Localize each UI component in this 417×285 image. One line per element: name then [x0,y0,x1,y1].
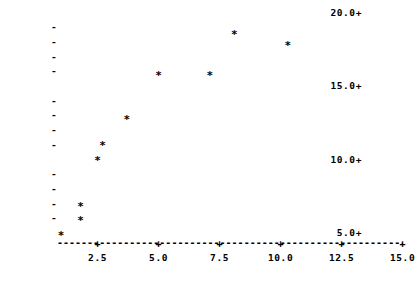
x-axis-label-7-5: 7.5 [210,253,229,263]
data-point: * [94,155,101,166]
data-point: * [285,40,292,51]
x-axis-tick-mark: + [156,239,162,249]
x-axis-label-10: 10.0 [268,253,293,263]
x-axis-tick-mark: + [217,239,223,249]
y-axis-minor-tick: - [51,96,60,106]
data-point: * [58,230,65,241]
data-point: * [207,70,214,81]
data-point: * [124,114,131,125]
data-point: * [77,215,84,226]
y-axis-minor-tick: - [51,199,60,209]
x-axis-label-5: 5.0 [149,253,168,263]
data-point: * [231,29,238,40]
y-axis-label-15: 15.0+ [300,81,362,91]
y-axis-minor-tick: - [51,169,60,179]
data-point: * [99,140,106,151]
y-axis-label-5: 5.0+ [300,228,362,238]
x-axis-tick-mark: + [400,239,406,249]
y-axis-label-10: 10.0+ [300,155,362,165]
data-point: * [155,70,162,81]
y-axis-minor-tick: - [51,22,60,32]
y-axis-minor-tick: - [51,140,60,150]
x-axis-tick-mark: + [339,239,345,249]
y-axis-minor-tick: - [51,214,60,224]
data-point: * [77,201,84,212]
x-axis-label-12-5: 12.5 [329,253,354,263]
scatter-plot-canvas: 5.0+10.0+15.0+20.0+ ------------ -------… [0,0,417,285]
x-axis-line: ----------------------------------------… [57,238,403,248]
y-axis-minor-tick: - [51,125,60,135]
y-axis-label-20: 20.0+ [300,8,362,18]
x-axis-tick-mark: + [278,239,284,249]
y-axis-minor-tick: - [51,111,60,121]
x-axis-label-15: 15.0 [390,253,415,263]
y-axis-minor-tick: - [51,184,60,194]
x-axis-tick-mark: + [95,239,101,249]
y-axis-minor-tick: - [51,37,60,47]
x-axis-label-2-5: 2.5 [88,253,107,263]
y-axis-minor-tick: - [51,67,60,77]
y-axis-minor-tick: - [51,52,60,62]
